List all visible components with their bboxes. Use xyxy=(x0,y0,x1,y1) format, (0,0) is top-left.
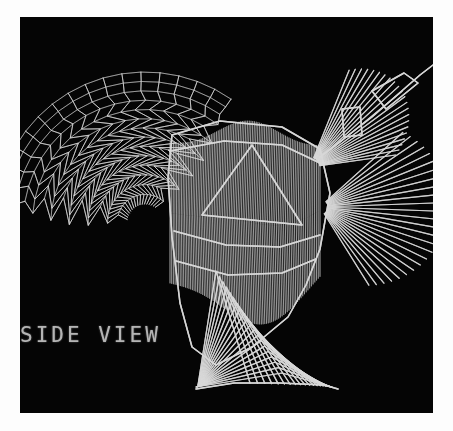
plot-canvas: SIDE VIEW xyxy=(20,17,433,413)
wireframe-plot-svg xyxy=(20,17,433,413)
figure-root: SIDE VIEW xyxy=(0,0,453,431)
view-label-text: SIDE VIEW xyxy=(20,320,180,350)
